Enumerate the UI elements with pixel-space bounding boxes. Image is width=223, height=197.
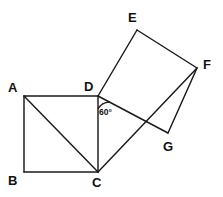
edge-D-E [98,30,137,96]
diagonal-A-C [24,96,98,172]
vertex-label-f: F [203,58,211,71]
vertex-label-b: B [8,174,17,187]
edge-E-F [137,30,197,68]
vertex-label-c: C [92,176,101,189]
edge-F-G [168,68,197,133]
vertex-label-e: E [128,11,137,24]
vertex-label-g: G [163,140,173,153]
segment-C-F [98,68,197,172]
vertex-label-a: A [8,81,17,94]
geometry-figure: ABCDEFG60° [0,0,223,197]
angle-label-60-degrees: 60° [99,108,112,117]
geometry-canvas [0,0,223,197]
vertex-label-d: D [84,80,93,93]
